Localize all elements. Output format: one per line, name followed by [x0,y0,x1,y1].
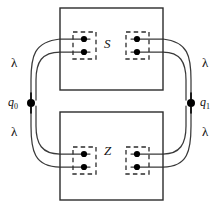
box-label-s: S [104,37,111,50]
lambda-label-top-left: λ [11,56,17,69]
qubit-dot [134,151,140,157]
lambda-label-bottom-right: λ [202,125,208,138]
lambda-label-bottom-left: λ [11,125,17,138]
diagram-canvas [0,0,222,208]
qubit-dot [134,164,140,170]
node-dot-q0 [27,99,35,107]
qubit-dot [81,151,87,157]
node-label-q1-subscript: 1 [206,102,210,111]
box-s-outline [60,8,163,90]
network-diagram: S Z λ λ λ λ q0 q1 [0,0,222,208]
qubit-dot [134,49,140,55]
lambda-label-top-right: λ [202,56,208,69]
node-label-q1: q1 [200,96,210,111]
box-label-z: Z [104,144,111,157]
qubit-dot [81,49,87,55]
qubit-dot [81,36,87,42]
qubit-dot [134,36,140,42]
node-label-q0: q0 [8,96,18,111]
node-label-q0-subscript: 0 [14,102,18,111]
wire-q1-s-inner [131,52,186,100]
box-z-outline [60,112,163,200]
node-dot-q1 [187,99,195,107]
node-tick-group [31,93,191,113]
wire-q1-z-outer [131,107,191,167]
wire-q1-z-inner [131,106,186,154]
qubit-dot [81,164,87,170]
